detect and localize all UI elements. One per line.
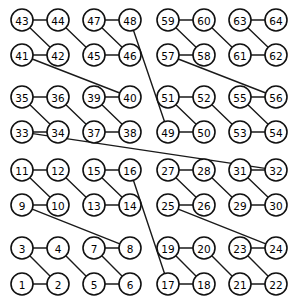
graph-node[interactable]: 63 — [229, 9, 251, 31]
graph-node[interactable]: 50 — [193, 121, 215, 143]
graph-node[interactable]: 45 — [83, 44, 105, 66]
nodes-layer: 4344474859606364414245465758616235363940… — [11, 9, 287, 295]
graph-node[interactable]: 52 — [193, 86, 215, 108]
graph-node[interactable]: 60 — [193, 9, 215, 31]
graph-node[interactable]: 43 — [11, 9, 33, 31]
node-label: 44 — [51, 15, 65, 27]
graph-node[interactable]: 22 — [265, 273, 287, 295]
graph-node[interactable]: 56 — [265, 86, 287, 108]
graph-node[interactable]: 14 — [119, 194, 141, 216]
node-label: 62 — [269, 50, 282, 62]
node-label: 63 — [233, 15, 246, 27]
graph-node[interactable]: 5 — [83, 273, 105, 295]
graph-node[interactable]: 2 — [47, 273, 69, 295]
graph-node[interactable]: 17 — [157, 273, 179, 295]
graph-node[interactable]: 32 — [265, 159, 287, 181]
graph-node[interactable]: 51 — [157, 86, 179, 108]
graph-node[interactable]: 3 — [11, 237, 33, 259]
node-label: 48 — [123, 15, 136, 27]
graph-node[interactable]: 58 — [193, 44, 215, 66]
graph-node[interactable]: 47 — [83, 9, 105, 31]
graph-node[interactable]: 53 — [229, 121, 251, 143]
graph-node[interactable]: 21 — [229, 273, 251, 295]
graph-node[interactable]: 42 — [47, 44, 69, 66]
node-label: 30 — [269, 200, 282, 212]
graph-node[interactable]: 49 — [157, 121, 179, 143]
graph-node[interactable]: 64 — [265, 9, 287, 31]
graph-node[interactable]: 30 — [265, 194, 287, 216]
graph-node[interactable]: 9 — [11, 194, 33, 216]
node-label: 36 — [51, 92, 65, 104]
graph-node[interactable]: 1 — [11, 273, 33, 295]
graph-edge — [30, 105, 50, 125]
graph-node[interactable]: 54 — [265, 121, 287, 143]
graph-node[interactable]: 55 — [229, 86, 251, 108]
node-label: 64 — [269, 15, 283, 27]
graph-node[interactable]: 7 — [83, 237, 105, 259]
graph-edge — [30, 178, 50, 198]
graph-node[interactable]: 38 — [119, 121, 141, 143]
node-label: 37 — [87, 127, 100, 139]
graph-edge — [212, 256, 232, 276]
graph-node[interactable]: 20 — [193, 237, 215, 259]
node-label: 18 — [197, 279, 210, 291]
graph-edge — [32, 209, 120, 244]
node-label: 13 — [87, 200, 100, 212]
graph-node[interactable]: 29 — [229, 194, 251, 216]
graph-node[interactable]: 35 — [11, 86, 33, 108]
graph-edge — [176, 28, 196, 48]
node-label: 52 — [197, 92, 210, 104]
graph-edge — [178, 209, 266, 244]
graph-node[interactable]: 59 — [157, 9, 179, 31]
graph-node[interactable]: 8 — [119, 237, 141, 259]
graph-edge — [32, 59, 120, 93]
graph-edge — [176, 178, 196, 198]
graph-node[interactable]: 28 — [193, 159, 215, 181]
graph-node[interactable]: 23 — [229, 237, 251, 259]
graph-node[interactable]: 24 — [265, 237, 287, 259]
graph-node[interactable]: 26 — [193, 194, 215, 216]
node-label: 45 — [87, 50, 100, 62]
graph-node[interactable]: 25 — [157, 194, 179, 216]
graph-node[interactable]: 46 — [119, 44, 141, 66]
node-label: 12 — [51, 165, 64, 177]
graph-node[interactable]: 44 — [47, 9, 69, 31]
graph-edge — [102, 28, 122, 48]
node-label: 32 — [269, 165, 282, 177]
graph-node[interactable]: 18 — [193, 273, 215, 295]
graph-node[interactable]: 13 — [83, 194, 105, 216]
graph-node[interactable]: 10 — [47, 194, 69, 216]
graph-node[interactable]: 11 — [11, 159, 33, 181]
graph-edge — [212, 105, 232, 125]
node-label: 16 — [123, 165, 137, 177]
graph-node[interactable]: 36 — [47, 86, 69, 108]
graph-node[interactable]: 41 — [11, 44, 33, 66]
graph-node[interactable]: 62 — [265, 44, 287, 66]
graph-node[interactable]: 34 — [47, 121, 69, 143]
graph-node[interactable]: 33 — [11, 121, 33, 143]
graph-node[interactable]: 6 — [119, 273, 141, 295]
node-label: 38 — [123, 127, 136, 139]
graph-edge — [133, 180, 164, 273]
node-label: 54 — [269, 127, 283, 139]
graph-node[interactable]: 39 — [83, 86, 105, 108]
node-label: 28 — [197, 165, 210, 177]
graph-node[interactable]: 12 — [47, 159, 69, 181]
node-label: 57 — [161, 50, 174, 62]
graph-node[interactable]: 57 — [157, 44, 179, 66]
graph-edge — [176, 256, 196, 276]
node-label: 26 — [197, 200, 211, 212]
graph-edge — [212, 178, 232, 198]
graph-node[interactable]: 27 — [157, 159, 179, 181]
graph-node[interactable]: 48 — [119, 9, 141, 31]
graph-node[interactable]: 61 — [229, 44, 251, 66]
graph-node[interactable]: 16 — [119, 159, 141, 181]
graph-edge — [212, 28, 232, 48]
graph-node[interactable]: 19 — [157, 237, 179, 259]
graph-node[interactable]: 15 — [83, 159, 105, 181]
graph-node[interactable]: 37 — [83, 121, 105, 143]
graph-node[interactable]: 40 — [119, 86, 141, 108]
node-label: 50 — [197, 127, 210, 139]
graph-node[interactable]: 4 — [47, 237, 69, 259]
graph-node[interactable]: 31 — [229, 159, 251, 181]
